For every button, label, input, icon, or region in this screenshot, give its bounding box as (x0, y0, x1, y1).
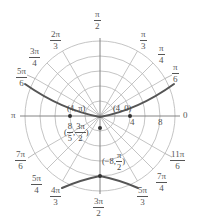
point-label-neg8-pi-2: (−8, π2 ) (102, 151, 125, 171)
angle-label-5pi-over-4: 5π4 (31, 174, 42, 195)
angle-label-pi: π (11, 111, 16, 120)
angle-label-3pi-over-4: 3π4 (29, 47, 40, 68)
ring-label-8: 8 (158, 118, 163, 127)
point-label-4-0: (4, 0) (113, 104, 131, 113)
ring-label-4: 4 (130, 118, 135, 127)
angle-label-7pi-over-6: 7π6 (15, 150, 26, 171)
angle-label-5pi-over-6: 5π6 (16, 67, 27, 88)
angle-label-pi-over-4: π4 (158, 44, 165, 65)
polar-graph (0, 0, 199, 221)
angle-label-0: 0 (183, 111, 188, 120)
conic-curve (25, 84, 174, 188)
angle-label-pi-over-3: π3 (140, 30, 147, 51)
angle-label-5pi-over-3: 5π3 (137, 186, 148, 207)
angle-label-pi-over-6: π6 (172, 63, 179, 84)
point-label-8-5-3pi-2: ( 85 , 3π2 ) (64, 122, 89, 142)
angle-label-pi-over-2: π2 (94, 10, 101, 31)
angle-label-4pi-over-3: 4π3 (50, 186, 61, 207)
angle-label-3pi-over-2: 3π2 (93, 197, 104, 218)
point-label-4-pi: (4, π) (67, 104, 85, 113)
angle-label-2pi-over-3: 2π3 (50, 30, 61, 51)
angle-label-11pi-over-6: 11π6 (170, 150, 185, 171)
angle-label-7pi-over-4: 7π4 (156, 172, 167, 193)
